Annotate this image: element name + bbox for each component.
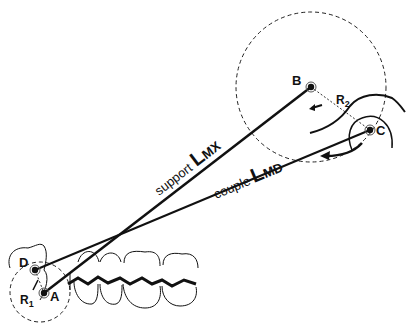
label-r1: R1 [20, 293, 34, 309]
label-a: A [50, 289, 60, 304]
support-line-lmx [44, 87, 311, 293]
label-c: C [376, 123, 386, 138]
upper-jaw-curve [310, 95, 405, 133]
rotation-arrowhead-b [309, 104, 315, 111]
label-b: B [292, 73, 301, 88]
point-b [306, 82, 316, 92]
label-r2: R2 [336, 93, 350, 109]
label-couple-lmd: coupleLMD [209, 154, 286, 203]
teeth-row [70, 251, 198, 308]
rotation-arrow-a [33, 280, 38, 290]
label-d: D [19, 255, 28, 270]
occlusal-line [68, 277, 196, 286]
rotation-arrowhead-c [320, 151, 330, 160]
point-d [30, 265, 40, 275]
lever-diagram: B C D A R2 R1 supportLMX coupleLMD [0, 0, 414, 330]
radius-r1-line [35, 270, 44, 293]
point-a [39, 288, 49, 298]
rotation-arrow-c [326, 143, 362, 156]
condyle-curve [349, 116, 392, 150]
